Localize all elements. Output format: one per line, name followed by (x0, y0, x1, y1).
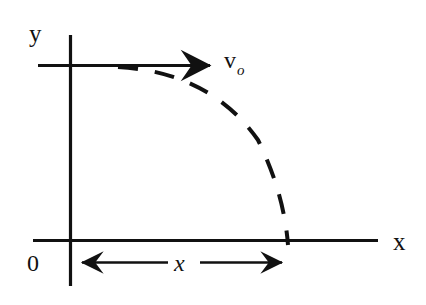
velocity-label-symbol: v (224, 47, 236, 73)
trajectory-dashed-path (118, 67, 288, 245)
velocity-label-subscript: o (237, 62, 245, 78)
y-axis-label: y (29, 20, 42, 47)
projectile-motion-diagram: y x 0 x vo (0, 0, 426, 305)
origin-label: 0 (27, 250, 39, 276)
range-dimension-label: x (173, 250, 185, 276)
x-axis-label: x (393, 228, 406, 255)
velocity-label: vo (224, 47, 245, 78)
diagram-canvas: y x 0 x vo (0, 0, 426, 305)
trajectory-curve (118, 67, 288, 245)
axes-group (33, 35, 378, 286)
